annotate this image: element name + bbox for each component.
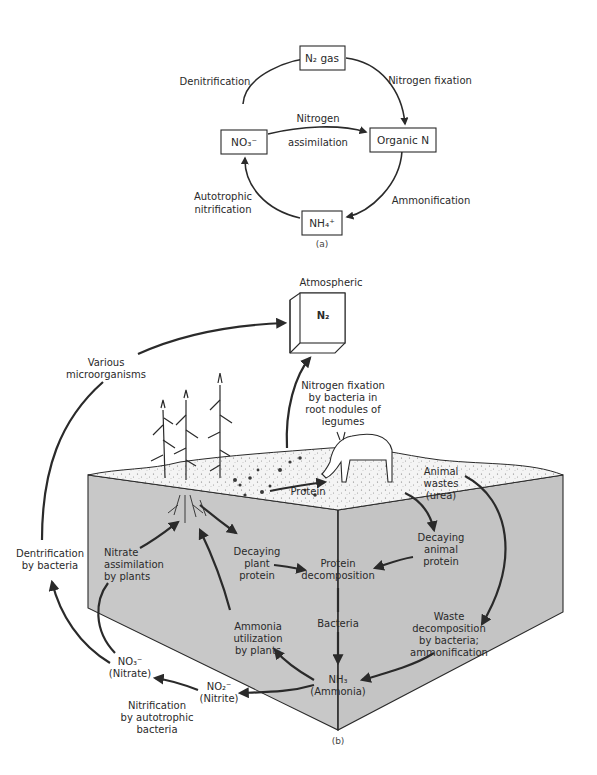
label-bacteria: Bacteria	[317, 618, 359, 629]
arrow-fixation-up	[287, 358, 310, 448]
nitrogen-cycle-diagram: N₂ gas Organic N NH₄⁺ NO₃⁻ Denitrificati…	[0, 0, 597, 775]
arrow-ammonification	[347, 151, 402, 217]
label-denitrification: Denitrification	[180, 76, 251, 87]
label-nitrate-assim-3: by plants	[104, 571, 150, 582]
label-denitrification-2: by bacteria	[22, 560, 79, 571]
label-animal-wastes-1: Animal	[424, 466, 459, 477]
label-microorganisms: microorganisms	[66, 369, 146, 380]
label-waste-decomp-2: decomposition	[412, 623, 485, 634]
label-nitrate-assim-2: assimilation	[104, 559, 164, 570]
label-no3: NO₃⁻	[118, 656, 143, 667]
soil-face-right	[338, 475, 563, 730]
label-animal-wastes-2: wastes	[424, 478, 459, 489]
atmospheric-n2-cube: Atmospheric N₂	[290, 277, 362, 353]
label-nh3: NH₃	[328, 674, 347, 685]
label-decaying-animal-2: animal	[424, 544, 458, 555]
label-nitrogen-assimilation-2: assimilation	[288, 137, 348, 148]
label-decaying-animal-3: protein	[423, 556, 459, 567]
label-ammonia-util-2: utilization	[233, 633, 282, 644]
label-atmospheric: Atmospheric	[300, 277, 363, 288]
label-autotrophic-nitrification-2: nitrification	[194, 204, 251, 215]
label-ammonification: Ammonification	[392, 195, 471, 206]
arrow-autotrophic-nitrification	[245, 158, 300, 218]
label-waste-decomp-3: by bacteria;	[419, 635, 479, 646]
label-decaying-plant-2: plant	[244, 558, 270, 569]
label-ammonia-util-1: Ammonia	[234, 621, 282, 632]
label-nitrate-assim-1: Nitrate	[104, 547, 139, 558]
label-animal-wastes-3: (urea)	[426, 490, 456, 501]
label-waste-decomp-4: ammonification	[410, 647, 488, 658]
label-decaying-animal-1: Decaying	[418, 532, 465, 543]
label-various: Various	[88, 357, 125, 368]
label-fixation-2: by bacteria in	[309, 392, 378, 403]
figure-a-cycle: N₂ gas Organic N NH₄⁺ NO₃⁻ Denitrificati…	[180, 46, 472, 249]
label-fixation-1: Nitrogen fixation	[301, 380, 385, 391]
node-nh4-label: NH₄⁺	[309, 217, 335, 229]
label-ammonia-util-3: by plants	[235, 645, 281, 656]
label-protein: Protein	[290, 486, 325, 497]
label-nitrification-3: bacteria	[136, 724, 177, 735]
arrow-nitrogen-fixation	[346, 58, 405, 124]
label-nitrification-2: by autotrophic	[121, 712, 194, 723]
node-n2-gas-label: N₂ gas	[305, 52, 339, 64]
label-nitrification-1: Nitrification	[128, 700, 186, 711]
label-decaying-plant-3: protein	[239, 570, 275, 581]
label-fixation-4: legumes	[322, 416, 365, 427]
label-waste-decomp-1: Waste	[434, 611, 465, 622]
caption-b: (b)	[332, 736, 345, 746]
label-nitrogen-fixation: Nitrogen fixation	[388, 75, 472, 86]
arrow-no2-to-no3	[155, 678, 198, 690]
node-no3-label: NO₃⁻	[231, 136, 257, 148]
arrow-microorganisms-to-n2	[138, 323, 285, 354]
caption-a: (a)	[316, 239, 329, 249]
arrow-nitrogen-assimilation	[268, 127, 366, 134]
label-decaying-plant-1: Decaying	[234, 546, 281, 557]
node-organic-n-label: Organic N	[377, 134, 429, 146]
label-protein-decomp-1: Protein	[320, 558, 355, 569]
label-nitrate: (Nitrate)	[109, 668, 151, 679]
label-no2: NO₂⁻	[207, 681, 232, 692]
label-fixation-3: root nodules of	[305, 404, 381, 415]
label-ammonia: (Ammonia)	[310, 686, 366, 697]
label-nitrite: (Nitrite)	[200, 693, 239, 704]
label-autotrophic-nitrification-1: Autotrophic	[194, 191, 252, 202]
label-nitrogen-assimilation-1: Nitrogen	[296, 113, 339, 124]
label-denitrification-1: Dentrification	[16, 548, 84, 559]
label-protein-decomp-2: decomposition	[301, 570, 374, 581]
label-n2: N₂	[317, 310, 330, 321]
